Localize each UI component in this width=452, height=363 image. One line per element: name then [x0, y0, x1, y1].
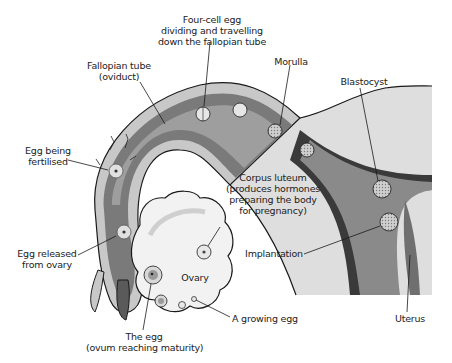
label-implantation: Implantation [242, 248, 306, 259]
morulla-icon [268, 124, 282, 138]
label-corpus-luteum: Corpus luteum (produces hormones prepari… [218, 172, 328, 216]
label-the-egg: The egg (ovum reaching maturity) [86, 331, 202, 353]
label-blastocyst: Blastocyst [334, 76, 394, 87]
label-fallopian-tube: Fallopian tube (oviduct) [84, 60, 154, 82]
growing-egg-icon [179, 302, 186, 309]
implantation-icon [380, 213, 398, 231]
label-egg-being-fertilised: Egg being fertilised [20, 145, 76, 167]
blastocyst-icon [373, 180, 391, 198]
label-growing-egg: A growing egg [232, 313, 312, 324]
label-morulla: Morulla [266, 56, 316, 67]
label-uterus: Uterus [390, 313, 430, 324]
label-four-cell-egg: Four-cell egg dividing and travelling do… [152, 14, 272, 47]
label-ovary: Ovary [178, 272, 212, 283]
label-egg-released: Egg released from ovary [16, 248, 78, 270]
